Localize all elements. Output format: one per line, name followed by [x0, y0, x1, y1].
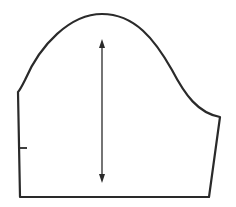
arrow-down-icon: [99, 174, 105, 183]
grainline-arrow: [99, 39, 105, 183]
sleeve-pattern-diagram: [0, 0, 236, 207]
arrow-up-icon: [99, 39, 105, 48]
sleeve-outline: [18, 14, 220, 197]
